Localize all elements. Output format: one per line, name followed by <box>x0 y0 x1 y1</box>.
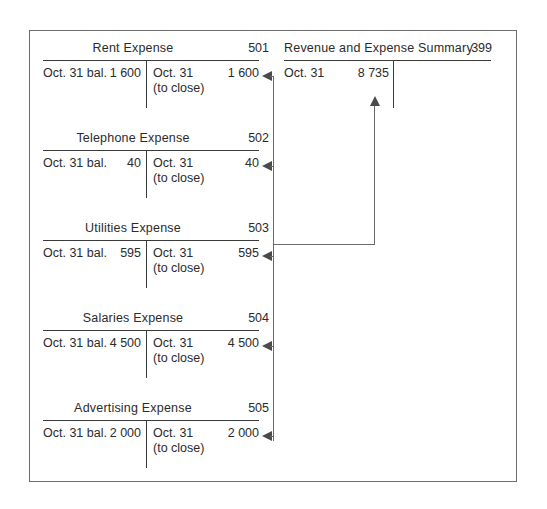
account-title: Utilities Expense <box>43 221 223 235</box>
credit-amount: 595 <box>199 246 259 261</box>
t-account-top-rule <box>43 420 259 421</box>
connector-segment-salaries <box>270 346 274 347</box>
t-account-top-rule <box>43 60 259 61</box>
account-number: 505 <box>223 401 269 415</box>
t-account-top-rule <box>43 240 259 241</box>
t-account-center-divider <box>146 330 147 378</box>
t-account-revenue-and-expense-summary: Revenue and Expense Summary 399 Oct. 31 … <box>284 41 492 111</box>
t-account-header: Rent Expense 501 <box>43 41 272 60</box>
connector-arrow-to-summary-account <box>370 96 380 106</box>
account-title: Telephone Expense <box>43 131 223 145</box>
account-number: 503 <box>223 221 269 235</box>
connector-segment-utilities <box>270 256 274 257</box>
credit-sublabel: (to close) <box>153 351 233 366</box>
t-account-header: Utilities Expense 503 <box>43 221 272 240</box>
account-number: 399 <box>447 41 492 55</box>
connector-branch-horizontal-to-summary <box>273 244 375 245</box>
t-account-rent-expense: Rent Expense 501 Oct. 31 bal. 1 600 Oct.… <box>43 41 272 111</box>
credit-amount: 4 500 <box>199 336 259 351</box>
t-account-header: Telephone Expense 502 <box>43 131 272 150</box>
credit-amount: 40 <box>199 156 259 171</box>
t-account-utilities-expense: Utilities Expense 503 Oct. 31 bal. 595 O… <box>43 221 272 291</box>
debit-amount: 8 735 <box>332 66 389 81</box>
credit-amount: 1 600 <box>199 66 259 81</box>
account-number: 504 <box>223 311 269 325</box>
account-title: Advertising Expense <box>43 401 223 415</box>
debit-amount: 2 000 <box>87 426 141 441</box>
connector-segment-telephone <box>270 166 274 167</box>
account-number: 502 <box>223 131 269 145</box>
t-account-header: Advertising Expense 505 <box>43 401 272 420</box>
account-title: Salaries Expense <box>43 311 223 325</box>
account-title: Revenue and Expense Summary <box>284 41 449 55</box>
t-account-top-rule <box>43 330 259 331</box>
diagram-canvas: Rent Expense 501 Oct. 31 bal. 1 600 Oct.… <box>0 0 547 509</box>
t-account-telephone-expense: Telephone Expense 502 Oct. 31 bal. 40 Oc… <box>43 131 272 201</box>
t-account-center-divider <box>146 240 147 288</box>
account-title: Rent Expense <box>43 41 223 55</box>
connector-segment-rent <box>270 76 274 77</box>
diagram-frame: Rent Expense 501 Oct. 31 bal. 1 600 Oct.… <box>29 30 517 482</box>
t-account-header: Revenue and Expense Summary 399 <box>284 41 492 60</box>
t-account-advertising-expense: Advertising Expense 505 Oct. 31 bal. 2 0… <box>43 401 272 471</box>
connector-branch-vertical-to-summary <box>374 106 375 245</box>
t-account-center-divider <box>146 150 147 198</box>
debit-amount: 40 <box>87 156 141 171</box>
credit-sublabel: (to close) <box>153 171 233 186</box>
debit-amount: 1 600 <box>87 66 141 81</box>
credit-sublabel: (to close) <box>153 441 233 456</box>
t-account-header: Salaries Expense 504 <box>43 311 272 330</box>
t-account-center-divider <box>146 420 147 468</box>
credit-sublabel: (to close) <box>153 81 233 96</box>
t-account-top-rule <box>43 150 259 151</box>
credit-sublabel: (to close) <box>153 261 233 276</box>
debit-amount: 595 <box>87 246 141 261</box>
debit-amount: 4 500 <box>87 336 141 351</box>
connector-segment-advertising <box>270 436 274 437</box>
account-number: 501 <box>223 41 269 55</box>
credit-amount: 2 000 <box>199 426 259 441</box>
t-account-center-divider <box>393 60 394 108</box>
t-account-top-rule <box>284 60 491 61</box>
connector-trunk-vertical <box>273 76 274 441</box>
t-account-salaries-expense: Salaries Expense 504 Oct. 31 bal. 4 500 … <box>43 311 272 381</box>
t-account-center-divider <box>146 60 147 108</box>
